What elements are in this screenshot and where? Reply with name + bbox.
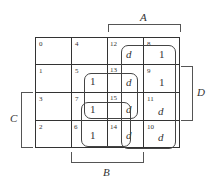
cell-index: 3 (39, 96, 43, 103)
cell-index: 6 (74, 124, 78, 131)
cell-index: 12 (110, 41, 117, 48)
bracket-d (181, 66, 193, 121)
label-d: D (197, 87, 205, 98)
cell-index: 0 (39, 41, 43, 48)
cell-index: 1 (39, 68, 43, 75)
cell-index: 5 (75, 68, 79, 75)
bracket-a (108, 24, 181, 32)
cell-3: 3 (36, 93, 72, 121)
cell-0: 0 (36, 38, 72, 65)
cell-1: 1 (36, 65, 72, 93)
cell-2: 2 (36, 121, 72, 149)
cell-index: 4 (75, 41, 79, 48)
loop-bc-group (81, 102, 131, 147)
cell-4: 4 (72, 38, 108, 65)
label-a: A (140, 12, 147, 23)
cell-index: 7 (75, 96, 79, 103)
bracket-b (71, 152, 144, 163)
label-b: B (103, 167, 110, 178)
label-c: C (10, 113, 17, 124)
bracket-c (21, 92, 33, 148)
cell-index: 2 (39, 124, 43, 131)
